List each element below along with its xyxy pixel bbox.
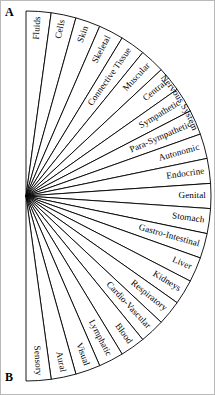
sector-label: Fluids (31, 16, 43, 40)
panel-label-b: B (5, 371, 13, 383)
figure-root: FluidsCellsSkinSkeletalConnective Tissue… (0, 0, 215, 395)
sector-label: Sensory (32, 345, 44, 376)
fan-diagram: FluidsCellsSkinSkeletalConnective Tissue… (0, 0, 215, 395)
sector-label: Genital (179, 190, 207, 200)
panel-label-a: A (5, 6, 14, 18)
